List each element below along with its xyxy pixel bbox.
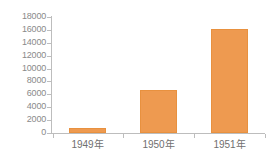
y-axis-tick bbox=[47, 107, 51, 108]
y-axis-tick bbox=[47, 56, 51, 57]
y-axis-tick bbox=[47, 17, 51, 18]
y-axis-tick-label-wrap: 16000 bbox=[0, 25, 46, 34]
y-axis-tick-label: 4000 bbox=[2, 102, 46, 111]
x-axis-tick-label: 1951年 bbox=[200, 139, 260, 151]
y-axis-tick-label-wrap: 8000 bbox=[0, 76, 46, 85]
bar-1949年 bbox=[69, 128, 106, 133]
y-axis-tick-label: 0 bbox=[2, 128, 46, 137]
y-axis-tick-label-wrap: 12000 bbox=[0, 51, 46, 60]
y-axis-tick bbox=[47, 30, 51, 31]
x-axis-tick bbox=[123, 134, 124, 138]
y-axis-tick-label-wrap: 18000 bbox=[0, 12, 46, 21]
x-axis-tick bbox=[265, 134, 266, 138]
y-axis-tick-label-wrap: 0 bbox=[0, 128, 46, 137]
y-axis-tick-label: 18000 bbox=[2, 12, 46, 21]
y-axis-tick bbox=[47, 81, 51, 82]
y-axis-tick-label: 14000 bbox=[2, 38, 46, 47]
x-axis-line bbox=[51, 133, 265, 134]
y-axis-tick-label: 8000 bbox=[2, 76, 46, 85]
y-axis-tick-label-wrap: 14000 bbox=[0, 38, 46, 47]
bar-chart: 0200040006000800010000120001400016000180… bbox=[0, 0, 270, 160]
y-axis-tick-label: 6000 bbox=[2, 89, 46, 98]
y-axis-tick-label: 12000 bbox=[2, 51, 46, 60]
y-axis-tick bbox=[47, 69, 51, 70]
y-axis-tick bbox=[47, 120, 51, 121]
x-axis-tick bbox=[53, 134, 54, 138]
y-axis-tick-label: 16000 bbox=[2, 25, 46, 34]
bar-1951年 bbox=[211, 29, 248, 133]
y-axis-tick-label-wrap: 2000 bbox=[0, 115, 46, 124]
x-axis-tick-label: 1950年 bbox=[129, 139, 189, 151]
x-axis-tick-label: 1949年 bbox=[58, 139, 118, 151]
y-axis-tick bbox=[47, 94, 51, 95]
bar-1950年 bbox=[140, 90, 177, 133]
x-axis-tick bbox=[194, 134, 195, 138]
y-axis-tick-label-wrap: 4000 bbox=[0, 102, 46, 111]
y-axis-line bbox=[51, 16, 52, 134]
y-axis-tick-label: 2000 bbox=[2, 115, 46, 124]
y-axis-tick bbox=[47, 43, 51, 44]
y-axis-tick bbox=[47, 133, 51, 134]
y-axis-tick-label: 10000 bbox=[2, 64, 46, 73]
y-axis-tick-label-wrap: 10000 bbox=[0, 64, 46, 73]
y-axis-tick-label-wrap: 6000 bbox=[0, 89, 46, 98]
